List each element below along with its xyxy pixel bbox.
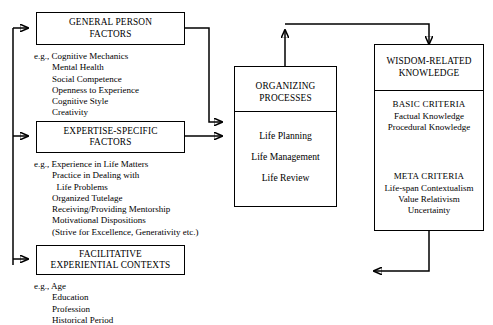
organizing-process-item: Life Planning [235,125,336,146]
box-facilitative-experiential-contexts: FACILITATIVE EXPERIENTIAL CONTEXTS [36,245,185,275]
basic-criteria-heading: BASIC CRITERIA [375,99,483,109]
organizing-processes-items: Life Planning Life Management Life Revie… [235,125,336,188]
general-person-factors-examples: e.g., Cognitive Mechanics Mental Health … [34,51,139,119]
box-organizing-processes-title: ORGANIZING PROCESSES [256,81,316,104]
meta-criteria-section: META CRITERIA Life-span Contextualism Va… [375,171,483,216]
expertise-specific-factors-examples: e.g., Experience in Life Matters Practic… [34,159,198,238]
box-wisdom-related-knowledge-title: WISDOM-RELATED KNOWLEDGE [386,56,471,79]
organizing-process-item: Life Review [235,167,336,188]
box-wisdom-related-knowledge: WISDOM-RELATED KNOWLEDGE BASIC CRITERIA … [374,44,484,231]
facilitative-contexts-examples: e.g., Age Education Profession Historica… [34,281,113,325]
meta-criteria-item: Uncertainty [375,205,483,216]
box-facilitative-experiential-contexts-title: FACILITATIVE EXPERIENTIAL CONTEXTS [51,249,171,272]
organizing-process-item: Life Management [235,146,336,167]
box-expertise-specific-factors: EXPERTISE-SPECIFIC FACTORS [36,121,185,153]
wisdom-model-diagram: GENERAL PERSON FACTORS e.g., Cognitive M… [0,0,493,325]
wire-wisdom-to-return [374,231,429,271]
organizing-processes-divider [235,111,336,112]
box-expertise-specific-factors-title: EXPERTISE-SPECIFIC FACTORS [63,126,157,149]
meta-criteria-heading: META CRITERIA [375,171,483,181]
wisdom-knowledge-divider [375,90,483,91]
basic-criteria-item: Procedural Knowledge [375,122,483,133]
basic-criteria-section: BASIC CRITERIA Factual Knowledge Procedu… [375,99,483,133]
wire-general-person-to-organizing [185,28,222,122]
box-general-person-factors-title: GENERAL PERSON FACTORS [69,17,152,40]
box-organizing-processes: ORGANIZING PROCESSES Life Planning Life … [234,66,337,207]
wire-organizing-to-wisdom [285,24,429,44]
box-general-person-factors: GENERAL PERSON FACTORS [36,12,185,45]
meta-criteria-item: Value Relativism [375,194,483,205]
meta-criteria-item: Life-span Contextualism [375,183,483,194]
basic-criteria-item: Factual Knowledge [375,111,483,122]
